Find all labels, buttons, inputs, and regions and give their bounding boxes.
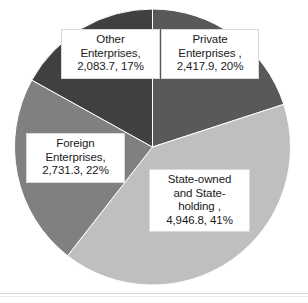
pie-label-state-owned-and-state-holding: State-owned and State- holding , 4,946.8… (149, 169, 250, 232)
footer-divider (0, 293, 308, 294)
footer-divider-secondary (0, 296, 308, 297)
pie-label-other-enterprises: Other Enterprises, 2,083.7, 17% (61, 29, 160, 79)
pie-label-foreign-enterprises: Foreign Enterprises, 2,731.3, 22% (26, 133, 125, 183)
pie-chart: Other Enterprises, 2,083.7, 17% Private … (0, 0, 308, 303)
pie-label-private-enterprises: Private Enterprises , 2,417.9, 20% (161, 29, 259, 79)
